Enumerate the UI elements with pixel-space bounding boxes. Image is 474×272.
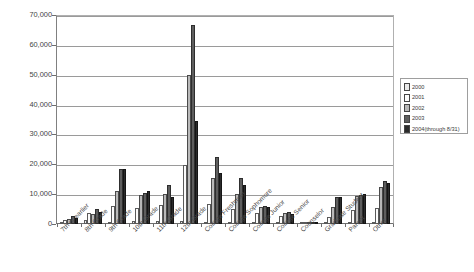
bar-group [348,15,367,224]
bar [219,173,223,224]
y-axis-tick-mark [52,105,56,106]
bar-group [180,15,199,224]
bar-group [204,15,223,224]
bar [339,197,343,224]
x-axis-tick-mark [369,224,370,227]
bar-group [300,15,319,224]
legend-item: 2002 [404,103,467,113]
x-axis-tick-mark [153,224,154,227]
y-axis-tick-label: 70,000 [29,11,52,19]
bar-group [156,15,175,224]
y-axis-tick-label: 50,000 [29,71,52,79]
x-axis-tick-mark [177,224,178,227]
y-axis-tick-mark [52,134,56,135]
x-axis-tick-mark [273,224,274,227]
x-axis-tick-mark [81,224,82,227]
legend-swatch-icon [404,83,410,91]
bar-group [84,15,103,224]
bar [147,191,151,224]
y-axis-tick-label: 10,000 [29,190,52,198]
bar [123,169,127,224]
bar-group [276,15,295,224]
legend-item: 2001 [404,93,467,103]
y-axis-tick-label: 20,000 [29,160,52,168]
y-axis-tick-label: 40,000 [29,101,52,109]
bar-group [324,15,343,224]
y-axis-tick-label: 60,000 [29,41,52,49]
x-axis-tick-mark [57,224,58,227]
legend-item: 2004(through 8/31) [404,124,467,134]
legend-label: 2004(through 8/31) [412,126,460,133]
x-axis-tick-mark [321,224,322,227]
x-axis-tick-mark [393,224,394,227]
x-axis-tick-mark [345,224,346,227]
y-axis-tick-mark [52,194,56,195]
bar-group [60,15,79,224]
bar [99,212,103,224]
bar [363,194,367,224]
legend-swatch-icon [404,104,410,112]
x-axis-tick-mark [129,224,130,227]
x-axis-tick-mark [249,224,250,227]
y-axis-tick-mark [52,45,56,46]
legend-item: 2000 [404,82,467,92]
y-axis-tick-mark [52,75,56,76]
bar-group [372,15,391,224]
x-axis-tick-mark [105,224,106,227]
x-axis-tick-mark [297,224,298,227]
x-axis-tick-mark [201,224,202,227]
bar-chart: 010,00020,00030,00040,00050,00060,00070,… [0,0,474,272]
bars-layer [57,15,393,224]
x-axis-tick-mark [225,224,226,227]
bar-group [132,15,151,224]
x-axis-ticks [57,224,393,225]
bar [267,207,271,224]
bar [171,197,175,224]
y-axis-tick-mark [52,164,56,165]
legend: 20002001200220032004(through 8/31) [400,78,468,134]
y-axis-tick-mark [52,224,56,225]
bar [243,185,247,224]
bar-group [108,15,127,224]
legend-swatch-icon [404,115,410,123]
bar [387,183,391,224]
legend-label: 2000 [412,84,424,91]
bar-group [252,15,271,224]
legend-swatch-icon [404,94,410,102]
legend-label: 2002 [412,105,424,112]
legend-swatch-icon [404,125,410,133]
y-axis-tick-label: 30,000 [29,130,52,138]
legend-item: 2003 [404,114,467,124]
legend-label: 2001 [412,94,424,101]
bar-group [228,15,247,224]
legend-label: 2003 [412,115,424,122]
bar [195,121,199,224]
bar [291,214,295,224]
y-axis-tick-mark [52,15,56,16]
